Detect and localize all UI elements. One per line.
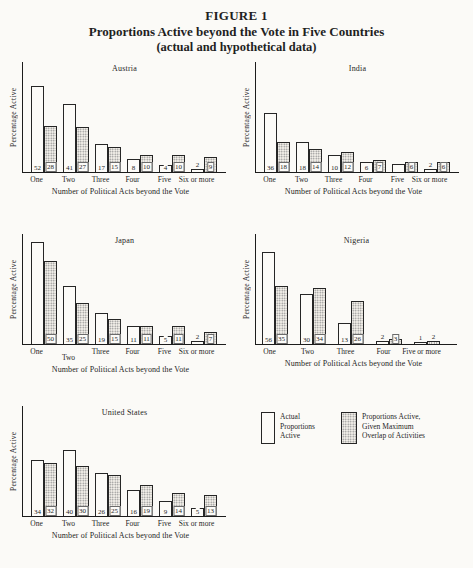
bar-value: 11 [130,336,138,344]
chart-austria: Percentage ActiveAustria5228412717158104… [6,62,239,212]
bar-value: 26 [352,334,363,344]
bar-value: 13 [205,506,216,516]
actual-bar: 2 [376,341,389,344]
bar-value: 56 [265,336,273,344]
bar-value: 11 [173,334,184,344]
actual-bar: 1 [414,342,427,344]
bar-value: 5 [163,336,168,344]
actual-bar: 41 [63,104,76,172]
bar-value: 17 [98,164,106,172]
hypothetical-bar: 14 [309,149,322,172]
x-category-label: One [24,175,50,184]
bar-value: 14 [310,162,321,172]
actual-bar [392,164,405,172]
bar-value: 9 [163,508,168,516]
hypothetical-bar: 7 [373,160,386,172]
bar-value: 27 [77,162,88,172]
actual-bar: 11 [127,326,140,344]
y-axis-label: Percentage Active [6,406,20,516]
bar-pair: 2625 [95,473,121,516]
x-category-label: Three [88,347,114,362]
bar-value: 7 [207,334,215,344]
bar-value: 18 [278,162,289,172]
bar-value: 13 [341,336,349,344]
bar-pair: 4030 [63,450,89,516]
x-category-label: Two [56,347,82,362]
actual-bar: 6 [360,162,373,172]
hypothetical-bar: 13 [204,495,217,516]
x-category-label: Five or more [409,347,435,356]
x-category-labels: OneTwoThreeFourFiveSix or more [24,517,227,528]
hypothetical-bar: 27 [76,127,89,172]
bar-pair: 3432 [31,460,57,516]
x-category-label: Five [152,519,178,528]
legend-label-hypothetical: Proportions Active, Given Maximum Overla… [362,412,425,441]
bar-pair: 3618 [264,113,290,172]
bar-pair: 23 [376,339,402,344]
x-category-label: Four [120,175,146,184]
bar-value: 2 [196,161,200,169]
legend: Actual Proportions Active Proportions Ac… [239,406,473,556]
x-category-label: Three [333,347,359,356]
bar-pair: 26 [424,162,450,172]
figure-page: FIGURE 1 Proportions Active beyond the V… [0,0,473,568]
x-category-label: Four [353,175,379,184]
actual-bar: 34 [31,460,44,516]
bar-value: 2 [381,333,385,341]
bar-pair: 6 [392,162,418,172]
hypothetical-bar: 15 [108,147,121,172]
bar-value: 2 [429,161,433,169]
hypothetical-bar: 7 [204,332,217,344]
bar-value: 15 [109,162,120,172]
hypothetical-bar: 32 [44,463,57,516]
actual-bar: 4 [159,165,172,172]
actual-bar: 17 [95,144,108,172]
bar-value: 52 [34,164,42,172]
bar-value: 41 [66,164,74,172]
x-category-label: Three [88,175,114,184]
x-category-label: Five [152,347,178,362]
bar-pair: 1012 [328,152,354,172]
actual-bar: 9 [159,501,172,516]
actual-bar: 10 [328,155,341,172]
hypothetical-bar: 30 [76,466,89,516]
bar-pair: 810 [127,155,153,172]
bar-value: 15 [109,334,120,344]
hypothetical-bar: 11 [172,326,185,344]
actual-bar: 5 [191,508,204,516]
bar-value: 14 [173,506,184,516]
actual-bar: 56 [262,252,275,344]
bar-value: 30 [77,506,88,516]
bar-value: 25 [109,506,120,516]
x-axis-label: Number of Political Acts beyond the Vote [22,365,219,375]
bar-value: 30 [303,336,311,344]
bar-value: 5 [195,508,200,516]
actual-bar: 8 [127,159,140,172]
bar-value: 9 [207,162,215,172]
bar-value: 35 [276,334,287,344]
bar-pair: 513 [191,495,217,516]
bar-value: 34 [314,334,325,344]
bar-pair: 4127 [63,104,89,172]
bar-pair: 1619 [127,485,153,516]
x-category-labels: OneTwoThreeFourFiveSix or more [257,173,460,184]
bar-value: 16 [130,508,138,516]
bar-value: 28 [45,162,56,172]
bar-pair: 3034 [300,288,326,344]
plot-area: United States3432403026251619914513 [22,406,226,517]
bar-pair: 1111 [127,326,153,344]
legend-item-actual: Actual Proportions Active [261,412,315,444]
x-category-label: One [257,175,283,184]
y-axis-label: Percentage Active [6,234,20,344]
bar-value: 2 [196,333,200,341]
hypothetical-bar: 19 [140,485,153,516]
bar-pair: 67 [360,160,386,172]
chart-title: India [256,64,459,73]
bar-pair: 1326 [338,301,364,344]
hypothetical-bar: 34 [313,288,326,344]
bar-pair: 511 [159,326,185,344]
chart-title: Austria [23,64,226,73]
bar-value: 25 [77,334,88,344]
hypothetical-bar: 15 [108,319,121,344]
x-category-label: Five [152,175,178,184]
